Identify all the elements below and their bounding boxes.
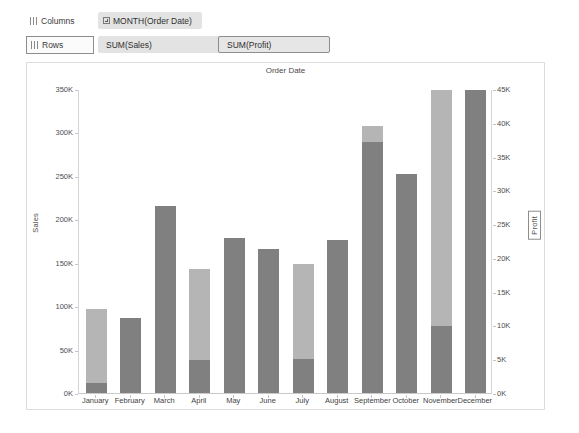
x-tick-mark: [233, 395, 234, 398]
x-tick-mark: [440, 395, 441, 398]
right-tick-mark: [493, 259, 496, 260]
rows-shelf-label[interactable]: Rows: [26, 36, 94, 54]
sales-segment[interactable]: [396, 174, 417, 393]
left-tick-mark: [75, 133, 78, 134]
profit-segment[interactable]: [362, 126, 383, 143]
right-tick-45K: 45K: [492, 86, 532, 94]
rows-pill-slot-profit: SUM(Profit): [218, 36, 330, 53]
x-tick-mark: [268, 395, 269, 398]
right-tick-mark: [493, 90, 496, 91]
expand-plus-icon[interactable]: [103, 17, 110, 24]
x-tick-january[interactable]: January: [78, 397, 113, 405]
sales-segment[interactable]: [465, 90, 486, 393]
columns-shelf-row: Columns: [26, 12, 94, 30]
x-tick-may[interactable]: May: [216, 397, 251, 405]
bar-july[interactable]: [293, 264, 314, 393]
right-tick-mark: [493, 293, 496, 294]
rows-shelf-text: Rows: [42, 40, 63, 50]
left-tick-250K: 250K: [27, 173, 78, 181]
x-tick-july[interactable]: July: [285, 397, 320, 405]
sales-segment[interactable]: [120, 318, 141, 393]
right-tick-10K: 10K: [492, 322, 532, 330]
left-tick-50K: 50K: [27, 347, 78, 355]
x-tick-february[interactable]: February: [113, 397, 148, 405]
x-tick-august[interactable]: August: [320, 397, 355, 405]
x-tick-june[interactable]: June: [251, 397, 286, 405]
x-tick-october[interactable]: October: [389, 397, 424, 405]
left-tick-300K: 300K: [27, 129, 78, 137]
plot-area: [78, 90, 492, 394]
profit-segment[interactable]: [189, 269, 210, 360]
sales-segment[interactable]: [362, 142, 383, 393]
left-tick-mark: [75, 220, 78, 221]
pill-sum-sales-label: SUM(Sales): [106, 40, 152, 50]
profit-segment[interactable]: [86, 309, 107, 383]
left-tick-100K: 100K: [27, 303, 78, 311]
bar-november[interactable]: [431, 90, 452, 393]
right-tick-20K: 20K: [492, 255, 532, 263]
left-tick-150K: 150K: [27, 260, 78, 268]
sales-segment[interactable]: [258, 249, 279, 393]
right-tick-40K: 40K: [492, 120, 532, 128]
sales-segment[interactable]: [431, 326, 452, 393]
left-tick-mark: [75, 177, 78, 178]
profit-segment[interactable]: [293, 264, 314, 359]
sales-segment[interactable]: [86, 383, 107, 393]
x-tick-mark: [302, 395, 303, 398]
pill-sum-profit-label: SUM(Profit): [227, 40, 271, 50]
bar-may[interactable]: [224, 238, 245, 393]
right-tick-mark: [493, 124, 496, 125]
x-tick-mark: [130, 395, 131, 398]
bar-march[interactable]: [155, 206, 176, 393]
sales-segment[interactable]: [293, 359, 314, 393]
x-tick-mark: [406, 395, 407, 398]
chart-frame: Order Date Sales Profit JanuaryFebruaryM…: [26, 62, 545, 410]
pill-sum-profit[interactable]: SUM(Profit): [218, 36, 330, 53]
x-tick-december[interactable]: December: [458, 397, 493, 405]
sales-segment[interactable]: [327, 240, 348, 393]
profit-segment[interactable]: [431, 90, 452, 326]
x-tick-mark: [164, 395, 165, 398]
sales-segment[interactable]: [224, 238, 245, 393]
pill-month-order-date-label: MONTH(Order Date): [113, 16, 192, 26]
bar-june[interactable]: [258, 249, 279, 393]
bar-january[interactable]: [86, 309, 107, 393]
left-tick-mark: [75, 394, 78, 395]
bar-december[interactable]: [465, 90, 486, 393]
tableau-worksheet: Columns MONTH(Order Date) Rows SUM(Sales…: [0, 0, 579, 433]
columns-shelf-text: Columns: [41, 16, 75, 26]
left-tick-mark: [75, 307, 78, 308]
right-tick-mark: [493, 360, 496, 361]
shelf-area: Columns MONTH(Order Date) Rows SUM(Sales…: [26, 12, 546, 60]
right-tick-15K: 15K: [492, 289, 532, 297]
right-tick-mark: [493, 158, 496, 159]
right-tick-35K: 35K: [492, 154, 532, 162]
bar-august[interactable]: [327, 240, 348, 393]
pill-month-order-date[interactable]: MONTH(Order Date): [98, 12, 202, 29]
left-tick-200K: 200K: [27, 216, 78, 224]
left-tick-350K: 350K: [27, 86, 78, 94]
rows-shelf-row: Rows: [26, 36, 94, 54]
right-tick-5K: 5K: [492, 356, 532, 364]
x-tick-mark: [199, 395, 200, 398]
x-tick-march[interactable]: March: [147, 397, 182, 405]
right-tick-mark: [493, 225, 496, 226]
x-tick-april[interactable]: April: [182, 397, 217, 405]
grip-icon: [30, 17, 37, 25]
left-tick-mark: [75, 264, 78, 265]
bar-april[interactable]: [189, 269, 210, 393]
x-tick-november[interactable]: November: [423, 397, 458, 405]
columns-shelf-label[interactable]: Columns: [26, 12, 94, 30]
sales-segment[interactable]: [155, 206, 176, 393]
bar-february[interactable]: [120, 318, 141, 393]
sales-segment[interactable]: [189, 360, 210, 393]
right-tick-mark: [493, 394, 496, 395]
x-tick-mark: [371, 395, 372, 398]
x-tick-mark: [475, 395, 476, 398]
right-tick-30K: 30K: [492, 187, 532, 195]
left-tick-mark: [75, 90, 78, 91]
x-tick-september[interactable]: September: [354, 397, 389, 405]
bar-september[interactable]: [362, 125, 383, 393]
bar-october[interactable]: [396, 174, 417, 393]
x-tick-mark: [95, 395, 96, 398]
